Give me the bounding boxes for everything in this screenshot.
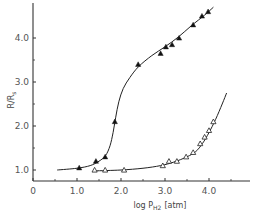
y-tick-label: 1.0 <box>15 165 30 175</box>
open-triangle-marker <box>166 159 171 164</box>
filled-triangle-marker <box>112 119 117 124</box>
filled-triangle-marker <box>206 9 211 14</box>
x-tick-label: 3.0 <box>158 186 173 196</box>
x-tick-label: 4.0 <box>202 186 217 196</box>
x-axis-label-subscript: H2 <box>153 204 162 211</box>
x-tick-label: 2.0 <box>114 186 129 196</box>
fit-curves <box>57 7 226 171</box>
y-tick-label: 2.0 <box>15 121 30 131</box>
x-tick-label: 1.0 <box>70 186 85 196</box>
filled-triangle-marker <box>158 51 163 56</box>
filled-triangle-marker <box>136 62 141 67</box>
open-triangle-marker <box>92 167 97 172</box>
y-tick-label: 4.0 <box>15 33 30 43</box>
x-tick-label: 0 <box>30 186 36 196</box>
axes <box>33 3 250 181</box>
y-tick-label: 3.0 <box>15 77 30 87</box>
filled-triangle-marker <box>103 154 108 159</box>
x-axis-label: log PH2[atm] <box>134 201 187 211</box>
filled-triangle-marker <box>93 159 98 164</box>
y-axis-label: R/Rs <box>7 92 17 109</box>
filled-triangles-fit-curve <box>57 7 213 170</box>
open-triangle-marker <box>103 167 108 172</box>
chart: 01.02.03.04.0 1.02.03.04.0 R/Rs log PH2[… <box>0 0 256 219</box>
data-markers <box>77 9 216 172</box>
y-axis-label-subscript: s <box>10 92 17 95</box>
open-triangle-marker <box>174 159 179 164</box>
